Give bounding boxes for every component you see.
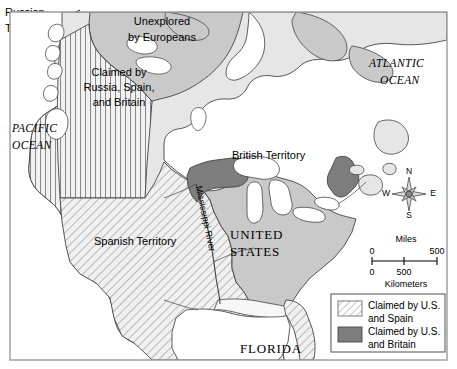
map-legend: Claimed by U.S. and Spain Claimed by U.S… [331,294,445,352]
legend-swatch-solid-dark [338,327,362,342]
atlantic-ocean-line2: OCEAN [380,74,421,86]
alexander-archipelago [48,63,63,79]
unexplored-line1: Unexplored [134,15,190,27]
compass-west-label: W [382,188,390,198]
cape-breton [383,163,396,174]
legend-item-0-line2: and Spain [368,313,413,324]
label-british-territory: British Territory [232,149,306,161]
label-spanish-territory: Spanish Territory [94,235,177,247]
nova-scotia [359,175,383,195]
scale-km-mid: 500 [396,267,411,277]
prince-edward-island [349,165,364,175]
united-states-line2: STATES [230,244,280,259]
kodiak-island [46,45,61,61]
lake-michigan [247,182,263,223]
compass-east-label: E [430,188,436,198]
scale-km-start: 0 [369,267,374,277]
unexplored-line2: by Europeans [128,31,196,43]
pacific-ocean-line1: PACIFIC [11,122,57,134]
map-canvas: Russian Territory [0,0,457,369]
scale-miles-start: 0 [369,246,374,256]
legend-item-1-line1: Claimed by U.S. [368,326,440,337]
pacific-ocean-line2: OCEAN [12,139,53,151]
label-florida: FLORIDA [240,341,302,356]
legend-item-1-line2: and Britain [368,339,416,350]
claimed-rsb-line3: and Britain [93,96,146,108]
compass-north-label: N [406,166,412,176]
label-claimed-russia-spain-britain: Claimed by Russia, Spain, and Britain [84,66,155,108]
queen-charlotte-islands [44,85,59,101]
scale-miles-end: 500 [429,246,444,256]
claimed-rsb-line2: Russia, Spain, [84,81,155,93]
legend-swatch-diagonal-hatch [338,301,362,316]
compass-south-label: S [406,210,412,220]
scale-kilometers-title: Kilometers [385,279,428,289]
compass-center-hub [406,191,412,197]
claimed-rsb-line1: Claimed by [91,66,147,78]
atlantic-ocean-line1: ATLANTIC [368,57,424,69]
aleutian-islands [48,24,64,42]
historical-map-figure: Russian Territory [0,0,457,369]
legend-item-0-line1: Claimed by U.S. [368,300,440,311]
united-states-line1: UNITED [230,227,283,242]
scale-miles-title: Miles [395,234,417,244]
